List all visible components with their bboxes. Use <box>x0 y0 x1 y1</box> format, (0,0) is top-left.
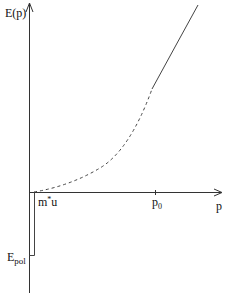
x-axis-label: p <box>216 199 222 213</box>
epol-step <box>30 193 35 256</box>
energy-dispersion-diagram: E(p) p m*u p0 Epol <box>0 0 227 293</box>
p0-label: p0 <box>152 195 162 211</box>
dispersion-curve-solid <box>152 5 198 89</box>
dispersion-curve-dashed <box>34 89 152 192</box>
epol-label: Epol <box>7 250 26 266</box>
y-axis-label: E(p) <box>5 6 26 20</box>
mu-label: m*u <box>38 195 57 209</box>
